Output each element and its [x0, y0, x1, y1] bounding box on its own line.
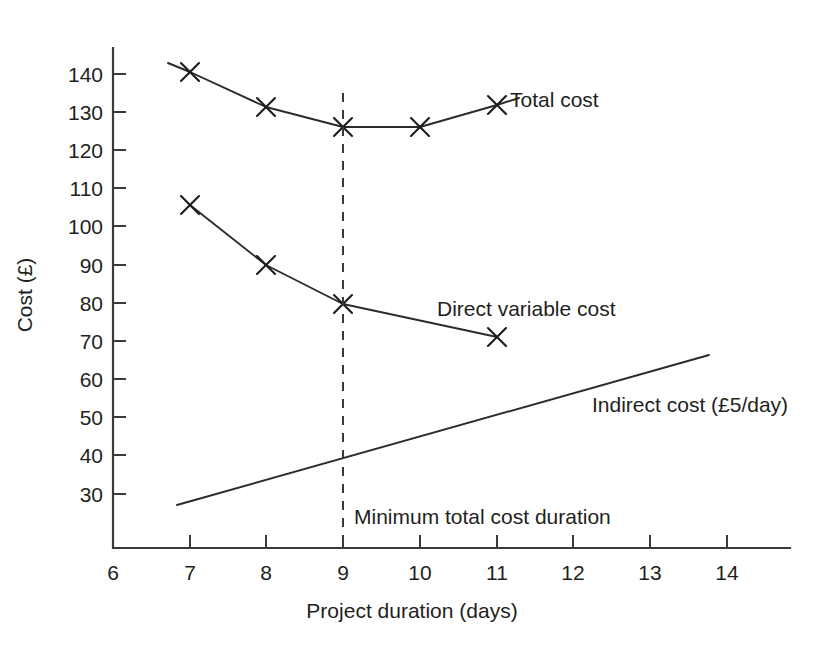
x-tick-label-11: 11 [486, 561, 508, 584]
x-tick-label-12: 12 [561, 561, 584, 584]
y-tick-label-130: 130 [68, 101, 103, 124]
cost-duration-line-chart: 140 130 120 110 100 90 80 70 60 50 40 30 [0, 0, 814, 646]
y-tick-label-70: 70 [80, 330, 103, 353]
y-tick-label-50: 50 [80, 406, 103, 429]
x-tick-label-8: 8 [260, 561, 272, 584]
annotation-indirect-cost: Indirect cost (£5/day) [592, 393, 788, 416]
y-tick-label-100: 100 [68, 215, 103, 238]
x-axis-tick-labels: 6 7 8 9 10 11 12 13 14 [107, 561, 739, 584]
y-axis-tick-labels: 140 130 120 110 100 90 80 70 60 50 40 30 [68, 63, 103, 506]
direct-cost-marker-day7 [181, 196, 199, 214]
total-cost-marker-day8 [257, 98, 275, 116]
y-axis-ticks [113, 74, 126, 494]
direct-cost-marker-day8 [257, 256, 275, 274]
y-tick-label-120: 120 [68, 139, 103, 162]
y-tick-label-40: 40 [80, 444, 103, 467]
x-tick-label-10: 10 [408, 561, 431, 584]
y-tick-label-140: 140 [68, 63, 103, 86]
y-tick-label-90: 90 [80, 254, 103, 277]
annotation-direct-variable-cost: Direct variable cost [437, 297, 616, 320]
x-axis-title: Project duration (days) [306, 599, 517, 622]
y-tick-label-30: 30 [80, 483, 103, 506]
x-tick-label-9: 9 [337, 561, 349, 584]
x-tick-label-14: 14 [715, 561, 739, 584]
direct-cost-marker-day11 [488, 328, 506, 346]
chart-figure: 140 130 120 110 100 90 80 70 60 50 40 30 [0, 0, 814, 646]
y-tick-label-60: 60 [80, 368, 103, 391]
indirect-cost-line [177, 355, 709, 505]
total-cost-marker-day7 [181, 63, 199, 81]
x-tick-label-7: 7 [184, 561, 196, 584]
y-axis-title: Cost (£) [13, 258, 36, 333]
annotation-total-cost: Total cost [510, 88, 599, 111]
total-cost-marker-day11 [488, 96, 506, 114]
x-tick-label-13: 13 [638, 561, 661, 584]
y-tick-label-110: 110 [70, 177, 103, 200]
y-tick-label-80: 80 [80, 292, 103, 315]
annotation-minimum-total-cost-duration: Minimum total cost duration [354, 505, 611, 528]
x-axis-ticks [113, 535, 727, 548]
x-tick-label-6: 6 [107, 561, 119, 584]
